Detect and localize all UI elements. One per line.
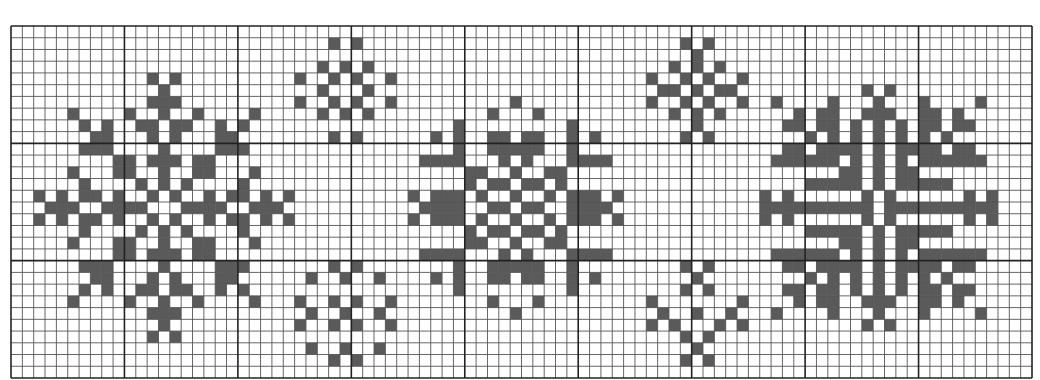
stitch-cell — [941, 225, 952, 237]
stitch-cell — [317, 61, 328, 73]
stitch-cell — [340, 343, 351, 355]
stitch-cell — [771, 96, 782, 108]
stitch-cell — [340, 108, 351, 120]
stitch-cell — [839, 179, 850, 191]
stitch-cell — [102, 284, 113, 296]
stitch-cell — [919, 261, 930, 273]
stitch-cell — [533, 272, 544, 284]
stitch-cell — [476, 214, 487, 226]
stitch-cell — [431, 202, 442, 214]
stitch-cell — [90, 143, 101, 155]
stitch-cell — [193, 249, 204, 261]
stitch-cell — [567, 214, 578, 226]
cross-stitch-chart — [0, 0, 1040, 380]
stitch-cell — [340, 308, 351, 320]
stitch-cell — [374, 272, 385, 284]
stitch-cell — [919, 296, 930, 308]
stitch-cell — [782, 214, 793, 226]
stitch-cell — [839, 143, 850, 155]
stitch-cell — [215, 284, 226, 296]
stitch-cell — [828, 296, 839, 308]
stitch-cell — [850, 272, 861, 284]
stitch-cell — [692, 61, 703, 73]
stitch-cell — [249, 202, 260, 214]
stitch-cell — [544, 167, 555, 179]
stitch-cell — [295, 296, 306, 308]
stitch-cell — [170, 249, 181, 261]
stitch-cell — [873, 296, 884, 308]
stitch-cell — [873, 272, 884, 284]
stitch-cell — [964, 202, 975, 214]
stitch-cell — [975, 155, 986, 167]
stitch-cell — [79, 284, 90, 296]
stitch-cell — [567, 143, 578, 155]
stitch-cell — [794, 143, 805, 155]
stitch-cell — [567, 155, 578, 167]
stitch-cell — [760, 202, 771, 214]
stitch-cell — [896, 143, 907, 155]
stitch-cell — [215, 272, 226, 284]
stitch-cell — [930, 261, 941, 273]
stitch-cell — [34, 214, 45, 226]
stitch-cell — [487, 261, 498, 273]
stitch-cell — [204, 214, 215, 226]
stitch-cell — [238, 261, 249, 273]
stitch-cell — [646, 319, 657, 331]
stitch-cell — [522, 143, 533, 155]
stitch-cell — [964, 143, 975, 155]
stitch-cell — [873, 155, 884, 167]
stitch-cell — [351, 319, 362, 331]
stitch-cell — [261, 214, 272, 226]
stitch-cell — [941, 272, 952, 284]
stitch-cell — [215, 143, 226, 155]
stitch-cell — [975, 249, 986, 261]
stitch-cell — [896, 202, 907, 214]
stitch-cell — [227, 143, 238, 155]
stitch-cell — [340, 272, 351, 284]
stitch-cell — [227, 190, 238, 202]
stitch-cell — [828, 308, 839, 320]
stitch-cell — [556, 237, 567, 249]
stitch-cell — [499, 225, 510, 237]
stitch-cell — [873, 167, 884, 179]
stitch-cell — [726, 85, 737, 97]
stitch-cell — [782, 155, 793, 167]
stitch-cell — [522, 202, 533, 214]
stitch-cell — [873, 132, 884, 144]
stitch-cell — [453, 155, 464, 167]
stitch-cell — [816, 179, 827, 191]
stitch-cell — [828, 96, 839, 108]
stitch-cell — [862, 214, 873, 226]
stitch-cell — [306, 308, 317, 320]
stitch-cell — [964, 261, 975, 273]
stitch-cell — [238, 190, 249, 202]
stitch-cell — [828, 272, 839, 284]
stitch-cell — [419, 202, 430, 214]
stitch-cell — [181, 284, 192, 296]
stitch-cell — [850, 225, 861, 237]
stitch-cell — [431, 249, 442, 261]
stitch-cell — [147, 96, 158, 108]
stitch-cell — [828, 225, 839, 237]
stitch-cell — [930, 155, 941, 167]
stitch-cell — [272, 202, 283, 214]
stitch-cell — [170, 331, 181, 343]
stitch-cell — [964, 284, 975, 296]
stitch-cell — [181, 225, 192, 237]
stitch-cell — [714, 108, 725, 120]
stitch-cell — [680, 96, 691, 108]
stitch-cell — [919, 108, 930, 120]
stitch-cell — [850, 179, 861, 191]
stitch-cell — [533, 108, 544, 120]
stitch-cell — [953, 155, 964, 167]
stitch-cell — [136, 120, 147, 132]
stitch-cell — [669, 108, 680, 120]
stitch-cell — [714, 319, 725, 331]
stitch-cell — [907, 225, 918, 237]
stitch-cell — [816, 261, 827, 273]
stitch-cell — [317, 108, 328, 120]
stitch-cell — [782, 261, 793, 273]
stitch-cell — [533, 261, 544, 273]
stitch-cell — [170, 155, 181, 167]
stitch-cell — [782, 143, 793, 155]
